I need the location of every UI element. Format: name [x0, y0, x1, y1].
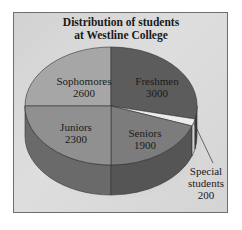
label-sophomores-value: 2600 — [44, 87, 124, 99]
label-freshmen-name: Freshmen — [122, 75, 192, 87]
label-freshmen-value: 3000 — [122, 87, 192, 99]
label-seniors-name: Seniors — [115, 127, 175, 139]
label-sophomores-name: Sophomores — [44, 75, 124, 87]
label-freshmen: Freshmen 3000 — [122, 75, 192, 99]
label-special-value: 200 — [183, 189, 229, 201]
label-juniors: Juniors 2300 — [46, 121, 106, 145]
label-sophomores: Sophomores 2600 — [44, 75, 124, 99]
label-special-name-2: students — [183, 177, 229, 189]
label-juniors-value: 2300 — [46, 133, 106, 145]
label-seniors: Seniors 1900 — [115, 127, 175, 151]
label-seniors-value: 1900 — [115, 139, 175, 151]
label-juniors-name: Juniors — [46, 121, 106, 133]
label-special-students: Special students 200 — [183, 165, 229, 201]
label-special-name-1: Special — [183, 165, 229, 177]
